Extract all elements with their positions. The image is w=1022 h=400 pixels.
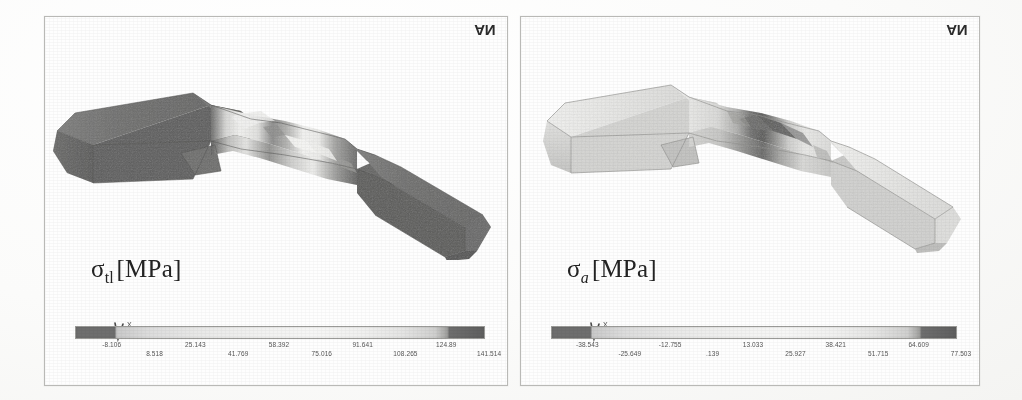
ansys-an-logo-right: AN	[946, 23, 967, 38]
colorbar-tick-label: 25.927	[785, 350, 805, 357]
specimen-mesh-left	[45, 45, 507, 260]
colorbar-tick-label: 38.421	[826, 341, 846, 348]
colorbar-tick-label: -12.755	[659, 341, 682, 348]
colorbar-gradient-left	[75, 326, 485, 339]
quantity-label-left: σtl[MPa]	[91, 255, 181, 287]
colorbar-tick-label: .139	[706, 350, 719, 357]
colorbar-tick-label: 13.033	[743, 341, 763, 348]
sigma-subscript-right: a	[581, 269, 589, 286]
colorbar-right: -38.543 -25.649 -12.755 .139 13.033 25.9…	[551, 326, 955, 361]
colorbar-ticks-right: -38.543 -25.649 -12.755 .139 13.033 25.9…	[551, 339, 955, 361]
colorbar-tick-label: 77.503	[951, 350, 971, 357]
specimen-3d-view-left[interactable]	[45, 45, 507, 260]
specimen-mesh-right	[521, 45, 979, 260]
colorbar-tick-label: 64.609	[908, 341, 928, 348]
colorbar-tick-label: -8.106	[102, 341, 121, 348]
figure-sheet: AN	[0, 0, 1022, 400]
sigma-unit-right: [MPa]	[592, 255, 657, 282]
colorbar-tick-label: 25.143	[185, 341, 205, 348]
sigma-symbol-left: σ	[91, 255, 105, 282]
colorbar-tick-label: -25.649	[618, 350, 641, 357]
contour-panel-left: AN	[44, 16, 508, 386]
colorbar-tick-label: 8.518	[146, 350, 163, 357]
quantity-label-right: σa[MPa]	[567, 255, 657, 287]
colorbar-left: -8.106 8.518 25.143 41.769 58.392 75.016…	[75, 326, 483, 361]
sigma-symbol-right: σ	[567, 255, 581, 282]
colorbar-tick-label: 51.715	[868, 350, 888, 357]
colorbar-tick-label: 75.016	[312, 350, 332, 357]
colorbar-ticks-left: -8.106 8.518 25.143 41.769 58.392 75.016…	[75, 339, 483, 361]
colorbar-gradient-right	[551, 326, 957, 339]
colorbar-tick-label: 58.392	[269, 341, 289, 348]
specimen-3d-view-right[interactable]	[521, 45, 979, 260]
sigma-unit-left: [MPa]	[117, 255, 182, 282]
sigma-subscript-left: tl	[105, 269, 114, 286]
ansys-an-logo-left: AN	[474, 23, 495, 38]
colorbar-tick-label: 124.89	[436, 341, 456, 348]
colorbar-tick-label: -38.543	[576, 341, 599, 348]
colorbar-tick-label: 141.514	[477, 350, 501, 357]
contour-panel-right: AN	[520, 16, 980, 386]
colorbar-tick-label: 108.265	[393, 350, 417, 357]
colorbar-tick-label: 91.641	[352, 341, 372, 348]
colorbar-tick-label: 41.769	[228, 350, 248, 357]
